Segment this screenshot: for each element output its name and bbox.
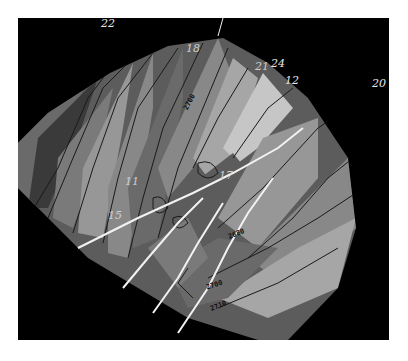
- well-marker-22[interactable]: 22: [101, 18, 115, 30]
- well-marker-15[interactable]: 15: [108, 209, 122, 222]
- contour-fill-bands: [18, 18, 389, 340]
- well-marker-17[interactable]: 17: [219, 169, 233, 182]
- well-marker-20[interactable]: 20: [372, 77, 386, 90]
- well-marker-18[interactable]: 18: [186, 42, 200, 55]
- well-marker-11[interactable]: 11: [125, 175, 139, 188]
- well-marker-21[interactable]: 21: [255, 60, 269, 73]
- well-marker-12[interactable]: 12: [285, 74, 299, 87]
- well-marker-24[interactable]: 24: [271, 57, 285, 70]
- contour-map-canvas: [18, 18, 389, 340]
- contour-map: 22 18 24 21 12 20 11 17 15 2700 2680 270…: [18, 18, 389, 340]
